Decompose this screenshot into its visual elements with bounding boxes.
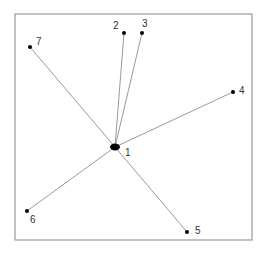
edge-1-7 [30,47,115,147]
node-label-5: 5 [195,225,201,236]
edge-1-5 [115,147,187,232]
node-label-3: 3 [142,18,148,29]
edge-1-6 [27,147,115,211]
edges-group [27,33,233,232]
edge-1-4 [115,92,233,147]
node-label-1: 1 [125,147,131,158]
node-4 [231,90,235,94]
network-diagram: 1234567 [0,0,263,253]
node-5 [185,230,189,234]
node-label-4: 4 [239,85,245,96]
node-label-6: 6 [30,214,36,225]
node-label-2: 2 [113,20,119,31]
nodes-group: 1234567 [25,18,245,236]
node-label-7: 7 [36,36,42,47]
node-3 [140,31,144,35]
node-2 [122,31,126,35]
node-7 [28,45,32,49]
hub-node-1 [110,144,120,151]
node-6 [25,209,29,213]
diagram-frame [15,14,252,240]
